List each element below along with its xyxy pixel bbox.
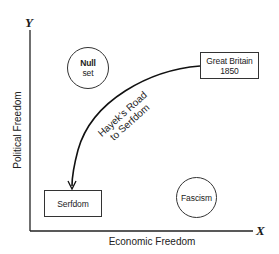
y-axis-label: Political Freedom — [12, 86, 24, 174]
great-britain-1850-node: Great Britain 1850 — [200, 52, 259, 79]
x-axis-label: Economic Freedom — [102, 236, 202, 248]
x-axis-letter: X — [256, 224, 265, 237]
null-set-node: Null set — [67, 47, 109, 89]
null-set-label-line1: Null — [80, 58, 96, 68]
y-axis-letter: Y — [25, 16, 33, 29]
diagram-lines — [0, 0, 279, 254]
great-britain-label-line2: 1850 — [220, 66, 239, 76]
serfdom-node: Serfdom — [44, 190, 102, 217]
null-set-label-line2: set — [82, 68, 93, 78]
great-britain-label-line1: Great Britain — [206, 56, 252, 66]
fascism-label: Fascism — [181, 193, 212, 203]
fascism-node: Fascism — [176, 177, 217, 218]
serfdom-label: Serfdom — [57, 199, 88, 209]
diagram-canvas: Y X Political Freedom Economic Freedom N… — [0, 0, 279, 254]
